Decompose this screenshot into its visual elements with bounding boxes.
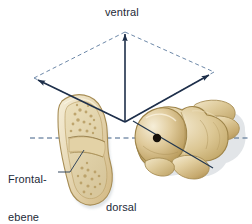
label-dorsal: dorsal: [106, 201, 137, 214]
anatomy-figure: ventral dorsal Frontal- ebene: [0, 0, 252, 224]
label-frontal-plane-line2: ebene: [8, 211, 47, 224]
label-ventral: ventral: [105, 6, 139, 19]
talus-three-dimensional: [135, 100, 246, 179]
label-frontal-plane-line1: Frontal-: [8, 173, 47, 186]
label-frontal-plane: Frontal- ebene: [8, 148, 47, 224]
rotation-axis-point: [153, 134, 161, 142]
